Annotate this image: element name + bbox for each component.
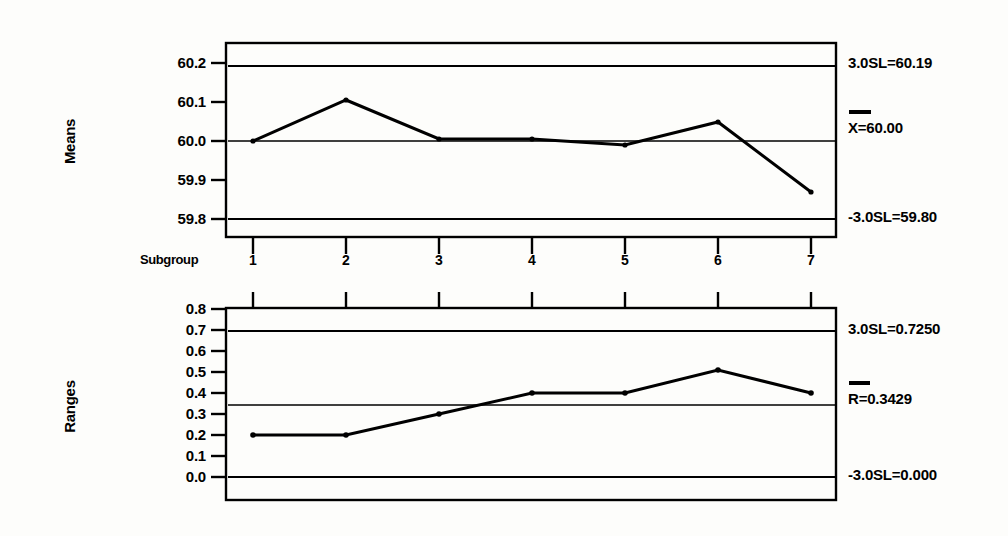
ranges-ytick-label: 0.0 (148, 468, 206, 485)
means-data-point (250, 138, 255, 143)
rbar-overbar (849, 381, 870, 385)
means-chart: Means 60.2 60.1 60.0 59.9 59.8 (0, 0, 1008, 300)
ranges-lcl-label: -3.0SL=0.000 (848, 466, 937, 483)
subgroup-tick-label: 4 (512, 252, 552, 268)
means-center-label: X=60.00 (848, 119, 903, 136)
means-data-point (529, 136, 534, 141)
ranges-plot-frame (226, 308, 836, 500)
means-data-point (436, 136, 441, 141)
ranges-ytick-label: 0.3 (148, 405, 206, 422)
xbar-overbar (849, 110, 871, 114)
subgroup-tick-label: 1 (233, 252, 273, 268)
ranges-ytick-label: 0.4 (148, 384, 206, 401)
subgroup-tick-label: 5 (605, 252, 645, 268)
ranges-data-point (436, 411, 442, 417)
subgroup-tick-label: 2 (326, 252, 366, 268)
ranges-ytick-label: 0.1 (148, 447, 206, 464)
means-data-point (622, 142, 627, 147)
ranges-ytick-label: 0.8 (148, 300, 206, 317)
ranges-data-point (715, 367, 721, 373)
control-chart-page: Means 60.2 60.1 60.0 59.9 59.8 (0, 0, 1008, 536)
subgroup-tick-label: 6 (698, 252, 738, 268)
ranges-ytick-label: 0.5 (148, 363, 206, 380)
ranges-ytick-label: 0.6 (148, 342, 206, 359)
ranges-data-point (808, 390, 814, 396)
ranges-ytick-label: 0.7 (148, 321, 206, 338)
ranges-data-point (343, 432, 349, 438)
subgroup-axis-label: Subgroup (140, 252, 198, 267)
means-lcl-label: -3.0SL=59.80 (848, 208, 937, 225)
ranges-data-point (250, 432, 256, 438)
means-data-point (808, 189, 813, 194)
means-ucl-label: 3.0SL=60.19 (848, 54, 932, 71)
ranges-axis-title: Ranges (61, 368, 78, 446)
subgroup-tick-label: 7 (791, 252, 831, 268)
ranges-center-label: R=0.3429 (848, 390, 912, 407)
means-data-point (343, 97, 348, 102)
ranges-data-line (253, 370, 811, 435)
subgroup-tick-label: 3 (419, 252, 459, 268)
means-data-line (253, 100, 811, 192)
ranges-data-point (529, 390, 535, 396)
ranges-ytick-label: 0.2 (148, 426, 206, 443)
means-data-point (715, 119, 720, 124)
ranges-ucl-label: 3.0SL=0.7250 (848, 320, 940, 337)
ranges-data-point (622, 390, 628, 396)
